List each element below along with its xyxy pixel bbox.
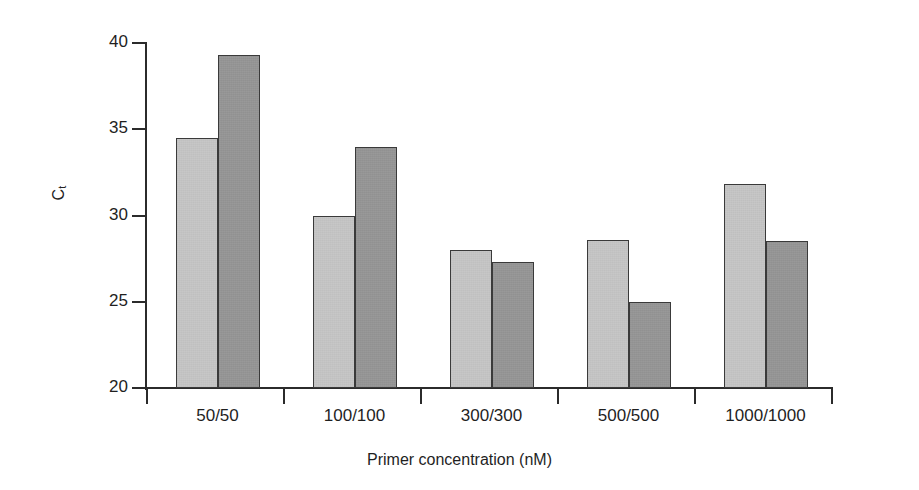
bar-300-300-dark [492, 262, 534, 388]
bar-50-50-light [176, 138, 218, 388]
bar-50-50-dark [218, 55, 260, 388]
x-axis-tick [694, 389, 696, 404]
y-axis-tick [132, 215, 146, 217]
y-axis-title: Ct [50, 170, 68, 216]
x-axis-title: Primer concentration (nM) [0, 451, 919, 469]
y-axis-title-subscript: t [56, 185, 68, 188]
bar-chart: Ct 2025303540 50/50100/100300/300500/500… [0, 0, 919, 490]
bar-500-500-dark [629, 302, 671, 388]
x-axis-tick [146, 389, 148, 404]
y-axis-tick [132, 301, 146, 303]
bar-100-100-light [313, 216, 355, 389]
x-axis-tick [557, 389, 559, 404]
bar-300-300-light [450, 250, 492, 388]
y-axis-tick-label: 35 [94, 118, 128, 138]
bar-1000-1000-dark [766, 241, 808, 388]
y-axis-tick-label: 25 [94, 291, 128, 311]
y-axis-tick [132, 42, 146, 44]
x-axis-category-label: 1000/1000 [696, 406, 836, 426]
x-axis-category-label: 100/100 [285, 406, 425, 426]
x-axis-category-label: 300/300 [422, 406, 562, 426]
x-axis-tick [420, 389, 422, 404]
y-axis-title-base: C [50, 189, 67, 201]
plot-area [147, 43, 832, 388]
x-axis-tick [831, 389, 833, 404]
x-axis-tick [283, 389, 285, 404]
y-axis-tick-label: 20 [94, 377, 128, 397]
x-axis-category-label: 50/50 [148, 406, 288, 426]
x-axis-category-label: 500/500 [559, 406, 699, 426]
y-axis-tick [132, 128, 146, 130]
bar-1000-1000-light [724, 184, 766, 388]
y-axis-tick-label: 30 [94, 205, 128, 225]
y-axis-tick [132, 387, 146, 389]
y-axis-tick-label: 40 [94, 32, 128, 52]
bar-100-100-dark [355, 147, 397, 389]
bar-500-500-light [587, 240, 629, 388]
